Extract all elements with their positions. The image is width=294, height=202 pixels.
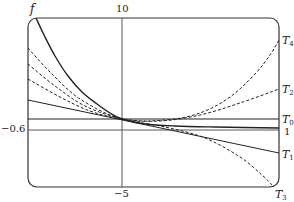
y-tick-right-label: 1: [284, 127, 290, 137]
y-tick-left-label: −0.6: [1, 124, 25, 134]
legend-T4: T4: [282, 35, 294, 48]
legend-T3: T3: [275, 189, 287, 202]
series-T1: [28, 100, 279, 153]
taylor-polynomial-chart: [0, 0, 294, 202]
plot-frame: [28, 18, 279, 187]
f-label: f: [30, 3, 34, 15]
legend-T2: T2: [282, 84, 294, 97]
legend-T1: T1: [282, 149, 294, 162]
x-tick-top-label: 10: [116, 4, 129, 14]
series-T4: [28, 40, 279, 121]
x-tick-bottom-label: −5: [114, 189, 129, 199]
series-T2: [28, 79, 279, 121]
legend-T0: T0: [282, 114, 294, 127]
series-f: [36, 18, 279, 128]
series-layer: [28, 18, 279, 187]
